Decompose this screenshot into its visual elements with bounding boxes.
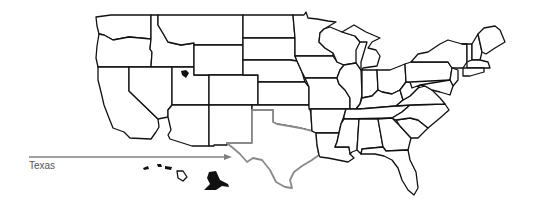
state-massachusetts[interactable] xyxy=(467,60,490,68)
state-florida[interactable] xyxy=(361,147,418,195)
state-wyoming[interactable] xyxy=(194,45,243,75)
alaska[interactable] xyxy=(204,171,229,190)
arrow-head-icon xyxy=(224,154,232,160)
us-map xyxy=(0,0,540,207)
state-maine[interactable] xyxy=(478,26,505,54)
state-kansas[interactable] xyxy=(258,82,309,105)
state-colorado[interactable] xyxy=(209,75,258,105)
state-oregon[interactable] xyxy=(96,34,152,67)
texas-label: Texas xyxy=(29,160,55,171)
state-south-dakota[interactable] xyxy=(243,38,297,61)
state-connecticut[interactable] xyxy=(463,68,484,76)
hawaii[interactable] xyxy=(143,164,187,181)
state-pennsylvania[interactable] xyxy=(405,62,452,82)
state-new-mexico[interactable] xyxy=(209,105,252,146)
state-montana[interactable] xyxy=(158,15,243,45)
state-north-dakota[interactable] xyxy=(243,15,295,38)
state-arizona[interactable] xyxy=(168,105,209,146)
